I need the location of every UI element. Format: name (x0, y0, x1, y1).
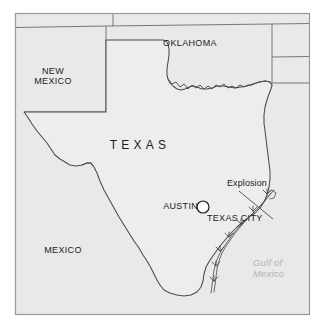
border-arkansas-louisiana (272, 57, 310, 58)
border-oklahoma-north-east (271, 24, 310, 25)
map-canvas (0, 0, 325, 333)
map-figure: NEW MEXICO OKLAHOMA TEXAS MEXICO AUSTIN … (0, 0, 325, 333)
austin-city-dot (197, 201, 209, 213)
